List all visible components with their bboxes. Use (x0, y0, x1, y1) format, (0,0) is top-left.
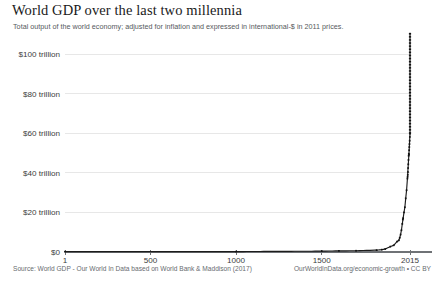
series-data-point (409, 126, 411, 128)
series-data-point (409, 140, 411, 142)
y-axis-labels: $0$20 trillion$40 trillion$60 trillion$8… (19, 50, 61, 257)
data-series-world-gdp (64, 33, 411, 252)
series-data-point (393, 244, 395, 246)
gridlines (65, 54, 410, 212)
series-data-point (409, 92, 411, 94)
x-axis-labels: 1500100015002015 (63, 256, 420, 265)
series-data-point (381, 249, 383, 251)
series-data-point (409, 58, 411, 60)
series-data-point (409, 76, 411, 78)
series-data-point (409, 55, 411, 57)
y-tick-label: $100 trillion (19, 50, 60, 59)
series-data-point (404, 206, 406, 208)
series-data-point (407, 174, 409, 176)
series-data-point (405, 197, 407, 199)
series-data-point (409, 80, 411, 82)
x-tick-label: 500 (144, 256, 158, 265)
series-data-point (409, 45, 411, 47)
y-tick-label: $80 trillion (23, 90, 60, 99)
series-data-point (409, 95, 411, 97)
source-note: Source: World GDP - Our World In Data ba… (13, 265, 252, 272)
series-data-point (409, 117, 411, 119)
series-data-point (409, 136, 411, 138)
series-data-point (409, 114, 411, 116)
series-data-point (409, 101, 411, 103)
series-data-point (399, 237, 401, 239)
series-data-point (409, 132, 411, 134)
series-data-point (409, 143, 411, 145)
series-data-point (409, 70, 411, 72)
series-data-point (403, 212, 405, 214)
plot-area: $0$20 trillion$40 trillion$60 trillion$8… (0, 0, 441, 296)
series-data-point (407, 167, 409, 169)
series-data-point (407, 176, 409, 178)
y-tick-label: $60 trillion (23, 129, 60, 138)
chart-card: World GDP over the last two millennia To… (0, 0, 441, 296)
series-data-point (384, 248, 386, 250)
x-tick-label: 2015 (401, 256, 420, 265)
series-data-point (408, 146, 410, 148)
series-data-point (409, 104, 411, 106)
series-data-point (396, 241, 398, 243)
series-data-point (409, 61, 411, 63)
series-data-point (409, 67, 411, 69)
series-data-point (409, 49, 411, 51)
series-data-point (407, 163, 409, 165)
series-data-point (401, 223, 403, 225)
series-data-point (408, 159, 410, 161)
series-data-point (235, 251, 237, 253)
series-data-point (409, 98, 411, 100)
series-data-point (409, 39, 411, 41)
series-data-point (338, 250, 340, 252)
attribution-note: OurWorldInData.org/economic-growth • CC … (294, 265, 431, 272)
series-data-point (376, 249, 378, 251)
series-data-point (409, 42, 411, 44)
series-data-point (409, 129, 411, 131)
series-data-point (409, 120, 411, 122)
series-data-point (409, 52, 411, 54)
series-data-point (409, 111, 411, 113)
series-data-point (409, 36, 411, 38)
y-tick-label: $20 trillion (23, 208, 60, 217)
x-tick-label: 1500 (313, 256, 332, 265)
y-tick-label: $40 trillion (23, 169, 60, 178)
series-data-point (389, 246, 391, 248)
series-data-point (409, 73, 411, 75)
series-data-point (408, 154, 410, 156)
x-tick-label: 1 (63, 256, 68, 265)
series-data-point (64, 251, 66, 253)
series-data-point (402, 217, 404, 219)
series-data-point (321, 250, 323, 252)
series-data-point (409, 123, 411, 125)
series-data-point (355, 250, 357, 252)
series-data-point (398, 239, 400, 241)
series-data-point (400, 234, 402, 236)
series-data-point (407, 171, 409, 173)
series-data-point (406, 189, 408, 191)
y-tick-label: $0 (51, 248, 61, 257)
series-data-point (409, 33, 411, 35)
series-data-point (401, 229, 403, 231)
series-data-point (409, 86, 411, 88)
series-data-point (409, 107, 411, 109)
series-data-point (407, 178, 409, 180)
series-line-world-gdp (65, 134, 410, 252)
series-data-point (409, 89, 411, 91)
series-data-point (409, 64, 411, 66)
series-data-point (409, 83, 411, 85)
series-data-point (408, 149, 410, 151)
x-tick-label: 1000 (227, 256, 246, 265)
